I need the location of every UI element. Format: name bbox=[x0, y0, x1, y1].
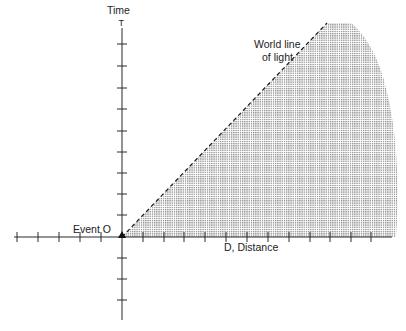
spacetime-diagram: Time T World line of light Event O D, Di… bbox=[0, 0, 406, 331]
time-axis-symbol: T bbox=[119, 18, 125, 28]
world-line-label-line2: of light bbox=[262, 51, 293, 63]
event-o-label: Event O bbox=[73, 223, 111, 235]
world-line-label-line1: World line bbox=[254, 38, 301, 50]
time-axis-label: Time bbox=[107, 4, 130, 16]
distance-axis-label: D, Distance bbox=[224, 241, 278, 253]
shaded-light-cone-region bbox=[122, 23, 397, 237]
